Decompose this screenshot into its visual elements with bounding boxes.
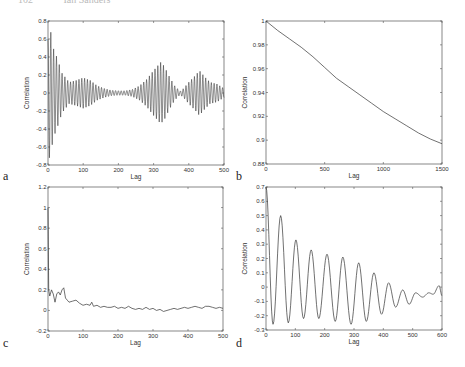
x-tick-label: 1500 (435, 166, 449, 172)
x-tick-label: 400 (184, 167, 195, 173)
y-axis-label: Correlation (23, 77, 30, 109)
chart-panel-b: 0500100015000.880.90.920.940.960.981LagC… (241, 18, 449, 180)
y-tick-label: 0.6 (38, 246, 47, 252)
x-axis-label: Lag (130, 339, 141, 347)
y-tick-label: 0.9 (256, 137, 265, 143)
x-tick-label: 100 (290, 332, 301, 338)
y-tick-label: -0.6 (36, 144, 47, 150)
y-tick-label: 0.94 (253, 90, 265, 96)
y-axis-label: Correlation (241, 76, 248, 108)
y-tick-label: 0.1 (256, 270, 265, 276)
x-tick-label: 0 (46, 167, 50, 173)
data-series-line (266, 21, 442, 144)
data-series-line (48, 32, 224, 158)
y-tick-label: 0.3 (256, 241, 265, 247)
x-tick-label: 500 (408, 332, 419, 338)
y-tick-label: 0.98 (253, 42, 265, 48)
y-tick-label: -0.1 (254, 298, 265, 304)
y-axis-label: Correlation (23, 243, 30, 275)
y-tick-label: -0.8 (36, 162, 47, 168)
y-tick-label: -0.2 (36, 108, 47, 114)
y-tick-label: -0.2 (254, 313, 265, 319)
y-tick-label: 1 (261, 18, 265, 24)
x-tick-label: 0 (264, 332, 268, 338)
y-tick-label: 0.6 (256, 198, 265, 204)
y-tick-label: 0.92 (253, 113, 265, 119)
y-tick-label: 1.2 (38, 184, 47, 190)
y-tick-label: 0.7 (256, 184, 265, 190)
x-axis-label: Lag (349, 172, 360, 180)
x-tick-label: 300 (148, 333, 159, 339)
plot-frame (266, 187, 442, 330)
x-tick-label: 100 (78, 333, 89, 339)
y-tick-label: 0 (261, 284, 265, 290)
y-tick-label: 0.8 (38, 225, 47, 231)
x-tick-label: 400 (183, 333, 194, 339)
y-tick-label: 0.5 (256, 213, 265, 219)
x-tick-label: 200 (113, 333, 124, 339)
y-tick-label: 0.4 (38, 54, 47, 60)
y-axis-label: Correlation (241, 242, 248, 274)
x-tick-label: 500 (320, 166, 331, 172)
data-series-line (266, 187, 442, 324)
y-tick-label: -0.4 (36, 126, 47, 132)
x-tick-label: 500 (219, 167, 230, 173)
x-tick-label: 600 (437, 332, 448, 338)
y-tick-label: -0.2 (36, 328, 47, 334)
x-tick-label: 400 (378, 332, 389, 338)
x-tick-label: 200 (320, 332, 331, 338)
x-tick-label: 200 (113, 167, 124, 173)
y-tick-label: 1 (43, 205, 47, 211)
data-series-line (48, 208, 223, 312)
y-tick-label: 0.6 (38, 36, 47, 42)
x-axis-label: Lag (131, 173, 142, 181)
x-tick-label: 0 (264, 166, 268, 172)
chart-panel-c: 0100200300400500-0.200.20.40.60.811.2Lag… (23, 184, 229, 347)
y-tick-label: 0.8 (38, 18, 47, 24)
x-tick-label: 100 (78, 167, 89, 173)
chart-panel-a: 0100200300400500-0.8-0.6-0.4-0.200.20.40… (23, 18, 230, 181)
y-tick-label: 0.88 (253, 161, 265, 167)
y-tick-label: -0.3 (254, 327, 265, 333)
y-tick-label: 0.2 (38, 72, 47, 78)
y-tick-label: 0.96 (253, 66, 265, 72)
figure: 0100200300400500-0.8-0.6-0.4-0.200.20.40… (0, 0, 465, 367)
y-tick-label: 0.2 (256, 256, 265, 262)
y-tick-label: 0 (43, 307, 47, 313)
panel-letter-a: a (3, 169, 9, 183)
x-tick-label: 0 (46, 333, 50, 339)
y-tick-label: 0 (43, 90, 47, 96)
chart-panel-d: 0100200300400500600-0.3-0.2-0.100.10.20.… (241, 184, 448, 346)
x-tick-label: 500 (218, 333, 229, 339)
y-tick-label: 0.4 (256, 227, 265, 233)
plot-frame (266, 21, 442, 164)
x-axis-label: Lag (349, 338, 360, 346)
panel-letter-d: d (236, 336, 242, 350)
panel-letter-c: c (3, 336, 8, 350)
panel-letter-b: b (236, 169, 242, 183)
x-tick-label: 1000 (377, 166, 391, 172)
y-tick-label: 0.2 (38, 287, 47, 293)
x-tick-label: 300 (149, 167, 160, 173)
y-tick-label: 0.4 (38, 266, 47, 272)
